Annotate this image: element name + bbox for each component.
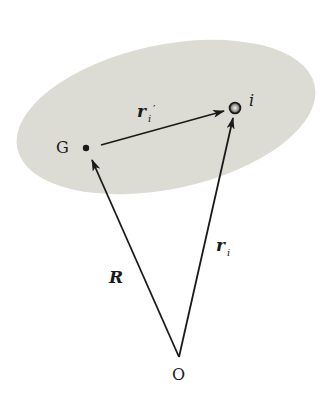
svg-text:i: i [148, 113, 151, 124]
particle-i-point [230, 103, 241, 114]
center-of-mass-point [83, 145, 89, 151]
label-G: G [56, 138, 69, 157]
svg-text:r: r [137, 101, 147, 121]
label-r-i: r i [216, 235, 230, 258]
label-O: O [172, 365, 185, 384]
svg-text:r: r [216, 235, 226, 255]
diagram-canvas: G i O R r i r i ′ [0, 0, 334, 411]
svg-text:i: i [227, 247, 230, 258]
label-R: R [108, 267, 123, 287]
rigid-body-ellipse [2, 15, 329, 219]
vector-diagram: G i O R r i r i ′ [0, 0, 334, 411]
label-i: i [249, 91, 254, 110]
